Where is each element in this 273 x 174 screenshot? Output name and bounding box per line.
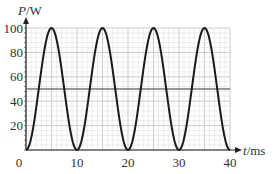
x-axis-label: t/ms bbox=[243, 143, 265, 158]
x-tick-label: 20 bbox=[122, 155, 135, 170]
y-tick-label: 100 bbox=[4, 21, 24, 36]
y-axis-arrow-icon bbox=[23, 17, 29, 24]
x-tick-label: 40 bbox=[224, 155, 237, 170]
y-tick-label: 40 bbox=[10, 94, 23, 109]
x-tick-label: 30 bbox=[173, 155, 186, 170]
x-axis-arrow-icon bbox=[235, 147, 242, 153]
y-tick-label: 80 bbox=[10, 45, 23, 60]
x-tick-label: 10 bbox=[71, 155, 84, 170]
y-axis-label: P/W bbox=[17, 3, 43, 18]
y-tick-label: 20 bbox=[10, 118, 23, 133]
x-tick-label: 0 bbox=[16, 155, 23, 170]
power-time-chart: 01020304020406080100 P/W t/ms bbox=[0, 0, 273, 174]
y-tick-label: 60 bbox=[10, 69, 23, 84]
